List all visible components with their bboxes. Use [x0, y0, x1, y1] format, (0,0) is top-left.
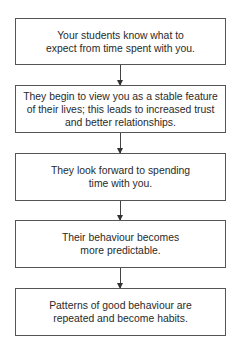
flow-step-4-text: Their behaviour becomes more predictable…	[58, 231, 183, 257]
down-arrow-icon	[120, 133, 121, 153]
flow-step-2: They begin to view you as a stable featu…	[15, 85, 226, 133]
down-arrow-icon	[120, 201, 121, 220]
flow-step-1-text: Your students know what to expect from t…	[46, 29, 196, 55]
down-arrow-icon	[120, 65, 121, 85]
flow-step-2-text: They begin to view you as a stable featu…	[22, 90, 219, 129]
flow-step-5-text: Patterns of good behaviour are repeated …	[41, 299, 201, 325]
flow-step-4: Their behaviour becomes more predictable…	[15, 220, 226, 268]
flow-step-3: They look forward to spending time with …	[15, 153, 226, 201]
down-arrow-icon	[120, 268, 121, 288]
flow-step-3-text: They look forward to spending time with …	[46, 164, 196, 190]
flow-step-1: Your students know what to expect from t…	[15, 18, 226, 65]
flow-step-5: Patterns of good behaviour are repeated …	[15, 288, 226, 336]
